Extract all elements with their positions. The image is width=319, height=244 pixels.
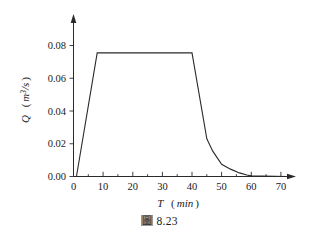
y-axis-title-unit: m bbox=[19, 94, 31, 102]
figure-caption-mark: 圖 bbox=[141, 215, 153, 226]
x-tick-label-0: 0 bbox=[71, 181, 76, 192]
y-axis bbox=[71, 14, 77, 177]
figure-caption: 圖8.23 bbox=[0, 215, 319, 227]
x-axis-title: T (min) bbox=[157, 197, 199, 210]
x-tick-group: 0 10 20 30 40 50 60 70 bbox=[71, 172, 286, 192]
x-tick-label-10: 10 bbox=[98, 181, 109, 192]
x-axis-arrow-icon bbox=[287, 174, 296, 180]
svg-text:Q (m3/s): Q (m3/s) bbox=[19, 77, 33, 123]
y-tick-label-0: 0.00 bbox=[48, 171, 66, 182]
y-tick-group: 0.00 0.02 0.04 0.06 0.08 bbox=[48, 40, 74, 182]
figure-container: 0.00 0.02 0.04 0.06 0.08 0 10 20 bbox=[0, 0, 319, 244]
y-axis-title: Q (m3/s) bbox=[19, 77, 33, 123]
x-tick-label-20: 20 bbox=[128, 181, 139, 192]
x-tick-label-30: 30 bbox=[157, 181, 168, 192]
x-tick-label-60: 60 bbox=[246, 181, 257, 192]
svg-text:T (min): T (min) bbox=[157, 197, 199, 210]
x-axis-title-unit: min bbox=[177, 197, 194, 209]
data-series-line bbox=[74, 53, 287, 177]
y-axis-arrow-icon bbox=[71, 14, 77, 23]
y-tick-label-4: 0.08 bbox=[48, 40, 66, 51]
x-axis-title-symbol: T bbox=[157, 197, 164, 209]
x-tick-label-40: 40 bbox=[187, 181, 198, 192]
x-tick-label-50: 50 bbox=[216, 181, 227, 192]
y-axis-title-symbol: Q bbox=[19, 115, 31, 123]
figure-caption-number: 8.23 bbox=[156, 215, 177, 227]
y-tick-label-2: 0.04 bbox=[48, 106, 67, 117]
y-tick-label-1: 0.02 bbox=[48, 138, 66, 149]
chart-plot-area: 0.00 0.02 0.04 0.06 0.08 0 10 20 bbox=[0, 0, 319, 244]
x-tick-label-70: 70 bbox=[276, 181, 287, 192]
y-tick-label-3: 0.06 bbox=[48, 73, 66, 84]
